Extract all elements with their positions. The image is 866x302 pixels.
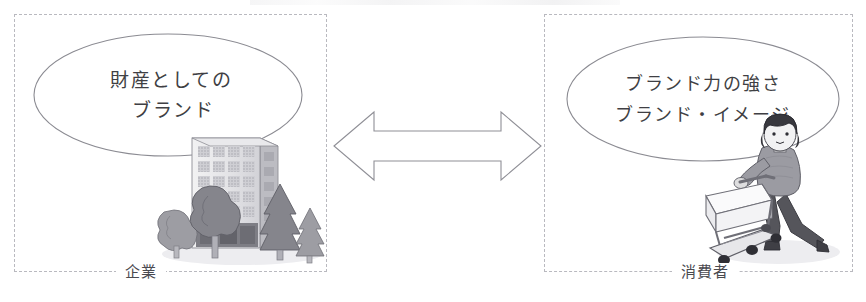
- double-headed-arrow-icon: [330, 106, 545, 186]
- tree-conical-small: [296, 208, 324, 263]
- clipped-title-trace: [250, 0, 620, 5]
- office-building-illustration: [150, 126, 330, 266]
- panel-label-consumer: 消費者: [672, 263, 738, 281]
- diagram-canvas: 財産としての ブランド: [0, 0, 866, 302]
- shopper-illustration: [700, 112, 850, 268]
- panel-label-company: 企業: [116, 263, 166, 281]
